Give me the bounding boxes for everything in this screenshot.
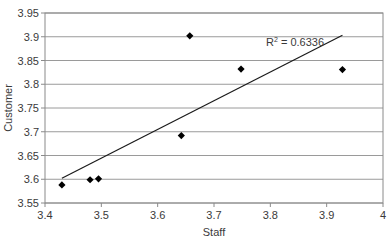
diamond-marker-icon xyxy=(186,32,193,39)
y-tick-label: 3.65 xyxy=(18,150,39,162)
diamond-marker-icon xyxy=(339,66,346,73)
x-tick-label: 4 xyxy=(380,209,386,221)
gridlines xyxy=(45,13,383,203)
diamond-marker-icon xyxy=(178,132,185,139)
y-tick-label: 3.85 xyxy=(18,55,39,67)
diamond-marker-icon xyxy=(237,65,244,72)
diamond-marker-icon xyxy=(86,176,93,183)
x-tick-label: 3.7 xyxy=(206,209,221,221)
x-tick-label: 3.8 xyxy=(263,209,278,221)
y-tick-label: 3.6 xyxy=(24,173,39,185)
y-tick-label: 3.55 xyxy=(18,197,39,209)
x-tick-label: 3.5 xyxy=(94,209,109,221)
scatter-chart: 3.553.63.653.73.753.83.853.93.95 3.43.53… xyxy=(0,0,391,241)
y-tick-label: 3.95 xyxy=(18,7,39,19)
r-squared-annotation: R2 = 0.6336 xyxy=(266,36,324,48)
y-axis-ticks: 3.553.63.653.73.753.83.853.93.95 xyxy=(18,7,45,209)
y-tick-label: 3.7 xyxy=(24,126,39,138)
x-tick-label: 3.6 xyxy=(150,209,165,221)
y-axis-label: Customer xyxy=(2,84,14,132)
x-axis-label: Staff xyxy=(203,226,226,238)
x-axis-ticks: 3.43.53.63.73.83.94 xyxy=(37,203,386,221)
x-tick-label: 3.4 xyxy=(37,209,52,221)
y-tick-label: 3.75 xyxy=(18,102,39,114)
y-tick-label: 3.8 xyxy=(24,78,39,90)
trendline xyxy=(62,35,343,178)
diamond-marker-icon xyxy=(58,181,65,188)
diamond-marker-icon xyxy=(95,175,102,182)
chart-canvas: 3.553.63.653.73.753.83.853.93.95 3.43.53… xyxy=(0,0,391,241)
y-tick-label: 3.9 xyxy=(24,31,39,43)
x-tick-label: 3.9 xyxy=(319,209,334,221)
